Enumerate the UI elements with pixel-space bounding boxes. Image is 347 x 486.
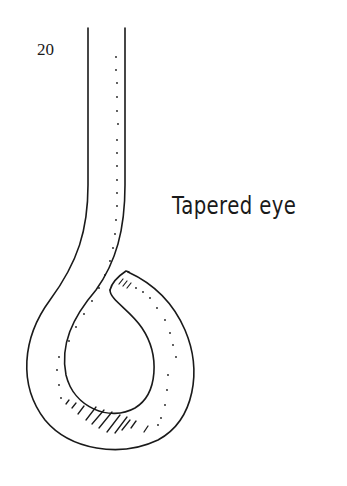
outer-contour [27,28,194,450]
tapered-eye-illustration [0,0,347,486]
bottom-hatching [66,400,148,433]
cut-end [110,271,129,290]
tip-hatching [119,279,131,288]
center-dotted-line [56,56,177,426]
inner-contour [64,28,154,413]
